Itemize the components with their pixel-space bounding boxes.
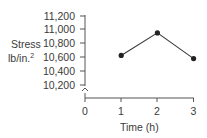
data-point xyxy=(191,56,196,61)
axis-break-icon xyxy=(82,88,88,91)
y-axis-label-line1: Stress xyxy=(11,38,41,50)
y-tick-label: 11,000 xyxy=(44,23,75,35)
y-tick-label: 11,200 xyxy=(44,10,75,22)
chart-plot xyxy=(0,0,207,138)
data-point xyxy=(119,53,124,58)
x-tick-label: 1 xyxy=(114,105,128,117)
y-axis-label-line2: lb/in.2 xyxy=(8,52,34,64)
y-tick-label: 10,200 xyxy=(43,79,75,91)
data-points xyxy=(119,30,197,61)
x-ticks xyxy=(85,98,194,102)
data-point xyxy=(155,30,160,35)
y-ticks xyxy=(80,16,85,85)
x-axis-label: Time (h) xyxy=(120,121,159,133)
y-axis-unit: lb/in. xyxy=(8,52,30,64)
y-tick-label: 10,400 xyxy=(43,65,75,77)
stress-time-chart: 11,200 11,000 10,800 10,600 10,400 10,20… xyxy=(0,0,207,138)
x-tick-label: 0 xyxy=(78,105,92,117)
y-tick-label: 10,800 xyxy=(43,37,75,49)
x-tick-label: 2 xyxy=(150,105,164,117)
y-tick-label: 10,600 xyxy=(43,51,75,63)
x-tick-label: 3 xyxy=(187,105,201,117)
y-axis-unit-exponent: 2 xyxy=(30,52,34,59)
series-line xyxy=(121,33,193,59)
